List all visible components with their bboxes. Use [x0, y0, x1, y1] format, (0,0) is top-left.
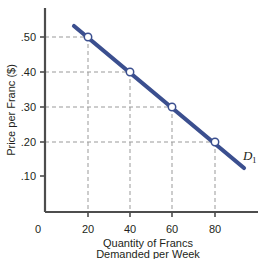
x-axis-title-line2: Demanded per Week: [96, 248, 200, 259]
data-point-20-050: [84, 33, 91, 40]
data-point-80-020: [211, 138, 218, 145]
x-tick-label-80: 80: [209, 223, 221, 235]
x-tick-label-60: 60: [166, 223, 178, 235]
demand-curve-chart: .50 .40 .30 .20 .10 0 20 40 60 80 D 1: [0, 0, 269, 259]
data-point-40-040: [126, 68, 133, 75]
chart-background: [0, 0, 269, 259]
y-tick-label-030: .30: [21, 101, 36, 113]
y-tick-label-010: .10: [21, 170, 36, 182]
x-tick-label-0: 0: [35, 223, 41, 235]
y-tick-label-020: .20: [21, 136, 36, 148]
series-label-subscript: 1: [252, 155, 257, 165]
x-tick-label-20: 20: [82, 223, 94, 235]
data-point-60-030: [168, 103, 175, 110]
chart-canvas: .50 .40 .30 .20 .10 0 20 40 60 80 D 1: [0, 0, 269, 259]
y-tick-label-050: .50: [21, 31, 36, 43]
y-axis-title: Price per Franc ($): [5, 64, 17, 156]
x-tick-label-40: 40: [124, 223, 136, 235]
y-tick-label-040: .40: [21, 66, 36, 78]
